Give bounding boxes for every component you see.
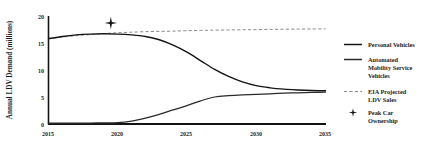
legend-item-personal-vehicles[interactable]: Personal Vehicles [344,41,415,48]
x-axis-ticks: 2015 2020 2025 2030 2035 [42,131,331,137]
x-tick-label: 2035 [319,131,331,137]
x-tick-label: 2025 [180,131,192,137]
legend-label: Vehicles [368,72,390,79]
chart-figure: Annual LDV Demand (millions) 20 15 10 5 … [0,0,430,148]
y-tick-label: 0 [41,122,44,128]
y-axis-ticks: 20 15 10 5 0 [38,14,44,128]
legend-label: EIA Projected [368,88,407,95]
legend-item-eia-projected-ldv-sales[interactable]: EIA Projected LDV Sales [344,88,407,103]
line-chart: Annual LDV Demand (millions) 20 15 10 5 … [0,0,430,148]
legend-label: Ownership [368,117,398,124]
four-pointed-star-icon [349,108,357,116]
y-axis-label: Annual LDV Demand (millions) [6,20,14,119]
y-tick-label: 5 [41,95,44,101]
series-group [49,29,326,123]
legend-label: Personal Vehicles [368,41,415,48]
legend-item-peak-car-ownership[interactable]: Peak Car Ownership [349,108,398,123]
x-tick-label: 2020 [111,131,123,137]
y-tick-label: 20 [38,14,44,20]
legend-label: LDV Sales [368,96,397,103]
peak-car-ownership-star-icon [105,17,117,29]
y-tick-label: 10 [38,68,44,74]
x-tick-label: 2015 [42,131,54,137]
legend-label: Peak Car [368,109,394,116]
legend-item-automated-mobility-service-vehicles[interactable]: Automated Mobility Service Vehicles [344,56,412,79]
legend-label: Automated [368,56,399,63]
chart-legend: Personal Vehicles Automated Mobility Ser… [344,41,415,124]
legend-label: Mobility Service [368,64,412,71]
x-tick-label: 2030 [250,131,262,137]
series-line-automated-mobility-service-vehicles [49,92,326,123]
y-tick-label: 15 [38,41,44,47]
series-line-personal-vehicles [49,34,326,91]
